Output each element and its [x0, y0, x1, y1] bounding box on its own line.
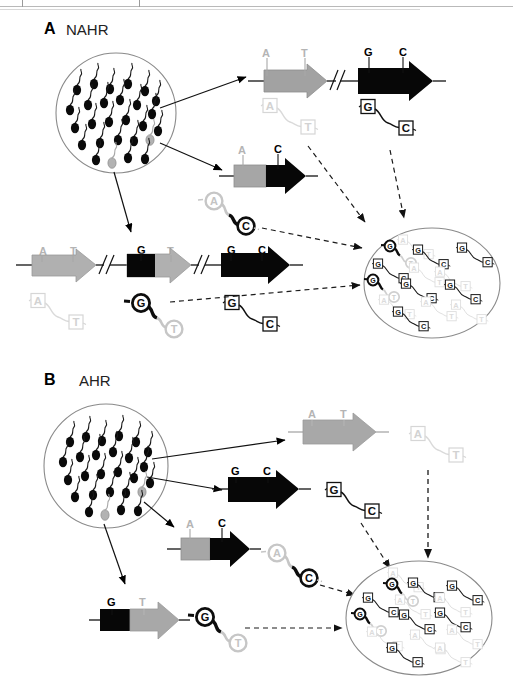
product-pool-nahr: [364, 228, 500, 338]
product-pool-ahr: [346, 561, 492, 675]
dashed-arrow-b3: [320, 585, 355, 595]
panelB-recombinant-arrow-gt: [89, 602, 190, 639]
leader-pool-to-recombinant: [160, 143, 222, 170]
dashed-arrow-b2: [361, 523, 390, 568]
panelA-top-gene-row: [248, 57, 446, 101]
figure-nahr-ahr: A NAHR A T G C A C A T G T G C B AHR A T…: [0, 0, 513, 678]
dashed-arrow-a3: [262, 228, 362, 248]
panelB-gene-arrow-black: [212, 470, 311, 509]
leader-pool-to-gene-row: [114, 172, 131, 232]
figure-vector-layer: G C A T A: [0, 0, 513, 678]
sperm-pool-nahr: [56, 53, 176, 173]
panelB-gene-arrow-gray: [288, 413, 389, 451]
panelA-molecule-gt-circled: [124, 294, 182, 337]
panelA-molecule-gc-boxed: [359, 100, 416, 136]
panelA-molecule-ac-circled: [198, 193, 259, 235]
dashed-arrow-a4: [170, 285, 360, 302]
panelB-molecule-at-faded: [409, 427, 466, 463]
dashed-arrow-a1: [308, 146, 365, 222]
panelB-recombinant-arrow-ac: [167, 528, 261, 567]
sperm-pool-ahr: [44, 404, 168, 528]
panelA-bottom-gene-row: [16, 246, 303, 284]
panelA-recombinant-arrow-ac: [219, 154, 318, 194]
panelB-molecule-gt-circled: [188, 608, 246, 651]
panelB-molecule-ac-circled: [261, 545, 322, 587]
dashed-arrow-a2: [390, 150, 404, 218]
panelB-molecule-gc-boxed: [325, 483, 382, 519]
panelA-molecule-at-faded-2: [29, 294, 86, 330]
leader-poolB-to-gray-gene: [152, 440, 285, 459]
panelA-molecule-at-faded: [261, 99, 318, 135]
leader-poolB-to-recomb-ac: [144, 502, 174, 527]
panelA-molecule-gc-boxed-2: [223, 296, 280, 332]
leader-poolB-to-recomb-gt: [104, 524, 125, 584]
